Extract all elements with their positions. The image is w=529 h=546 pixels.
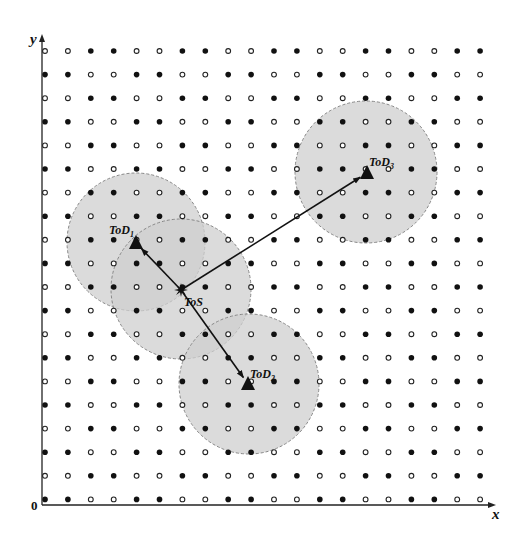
hollow-dot — [455, 403, 460, 408]
filled-dot — [134, 261, 140, 267]
hollow-dot — [157, 49, 162, 54]
hollow-dot — [317, 332, 322, 337]
hollow-dot — [134, 143, 139, 148]
hollow-dot — [432, 237, 437, 242]
filled-dot — [65, 261, 71, 267]
filled-dot — [65, 166, 71, 172]
hollow-dot — [157, 426, 162, 431]
filled-dot — [157, 308, 163, 314]
hollow-dot — [203, 261, 208, 266]
hollow-dot — [317, 143, 322, 148]
filled-dot — [225, 119, 231, 125]
hollow-dot — [386, 450, 391, 455]
filled-dot — [203, 48, 209, 54]
filled-dot — [340, 497, 346, 503]
filled-dot — [340, 166, 346, 172]
hollow-dot — [226, 426, 231, 431]
hollow-dot — [66, 190, 71, 195]
hollow-dot — [111, 308, 116, 313]
hollow-dot — [432, 426, 437, 431]
filled-dot — [409, 119, 415, 125]
filled-dot — [225, 213, 231, 219]
filled-dot — [225, 166, 231, 172]
hollow-dot — [249, 426, 254, 431]
filled-dot — [409, 72, 415, 78]
hollow-dot — [43, 237, 48, 242]
hollow-dot — [134, 285, 139, 290]
hollow-dot — [295, 403, 300, 408]
hollow-dot — [111, 355, 116, 360]
hollow-dot — [66, 332, 71, 337]
filled-dot — [340, 119, 346, 125]
hollow-dot — [157, 143, 162, 148]
filled-dot — [386, 237, 392, 243]
hollow-dot — [111, 261, 116, 266]
filled-dot — [225, 402, 231, 408]
hollow-dot — [478, 403, 483, 408]
filled-dot — [386, 426, 392, 432]
hollow-dot — [226, 285, 231, 290]
hollow-dot — [66, 426, 71, 431]
hollow-dot — [157, 237, 162, 242]
filled-dot — [180, 331, 186, 337]
hollow-dot — [409, 332, 414, 337]
hollow-dot — [226, 96, 231, 101]
hollow-dot — [478, 450, 483, 455]
filled-dot — [432, 166, 438, 172]
filled-dot — [271, 95, 277, 101]
filled-dot — [317, 119, 323, 125]
hollow-dot — [226, 190, 231, 195]
hollow-dot — [226, 143, 231, 148]
filled-dot — [432, 119, 438, 125]
filled-dot — [340, 72, 346, 78]
hollow-dot — [455, 497, 460, 502]
filled-dot — [317, 213, 323, 219]
hollow-dot — [249, 49, 254, 54]
hollow-dot — [272, 261, 277, 266]
filled-dot — [248, 308, 254, 314]
hollow-dot — [249, 332, 254, 337]
hollow-dot — [295, 72, 300, 77]
filled-dot — [111, 284, 117, 290]
filled-dot — [180, 426, 186, 432]
hollow-dot — [180, 261, 185, 266]
hollow-dot — [111, 72, 116, 77]
filled-dot — [65, 355, 71, 361]
hollow-dot — [317, 285, 322, 290]
hollow-dot — [295, 308, 300, 313]
hollow-dot — [111, 119, 116, 124]
filled-dot — [225, 449, 231, 455]
filled-dot — [248, 497, 254, 503]
hollow-dot — [43, 143, 48, 148]
filled-dot — [203, 190, 209, 196]
filled-dot — [180, 143, 186, 149]
hollow-dot — [88, 403, 93, 408]
hollow-dot — [249, 143, 254, 148]
hollow-dot — [111, 403, 116, 408]
filled-dot — [134, 166, 140, 172]
hollow-dot — [340, 190, 345, 195]
hollow-dot — [317, 190, 322, 195]
filled-dot — [454, 190, 460, 196]
filled-dot — [42, 497, 48, 503]
hollow-dot — [363, 355, 368, 360]
filled-dot — [317, 355, 323, 361]
filled-dot — [248, 72, 254, 78]
filled-dot — [386, 48, 392, 54]
hollow-dot — [317, 49, 322, 54]
hollow-dot — [272, 167, 277, 172]
filled-dot — [454, 473, 460, 479]
hollow-dot — [340, 379, 345, 384]
hollow-dot — [134, 379, 139, 384]
filled-dot — [65, 497, 71, 503]
filled-dot — [317, 497, 323, 503]
hollow-dot — [88, 119, 93, 124]
diagram-canvas: y x 0 ToSToD1ToD2ToD3 — [0, 0, 529, 546]
filled-dot — [248, 119, 254, 125]
hollow-dot — [340, 96, 345, 101]
hollow-dot — [203, 308, 208, 313]
filled-dot — [294, 190, 300, 196]
filled-dot — [363, 143, 369, 149]
filled-dot — [294, 95, 300, 101]
hollow-dot — [226, 473, 231, 478]
